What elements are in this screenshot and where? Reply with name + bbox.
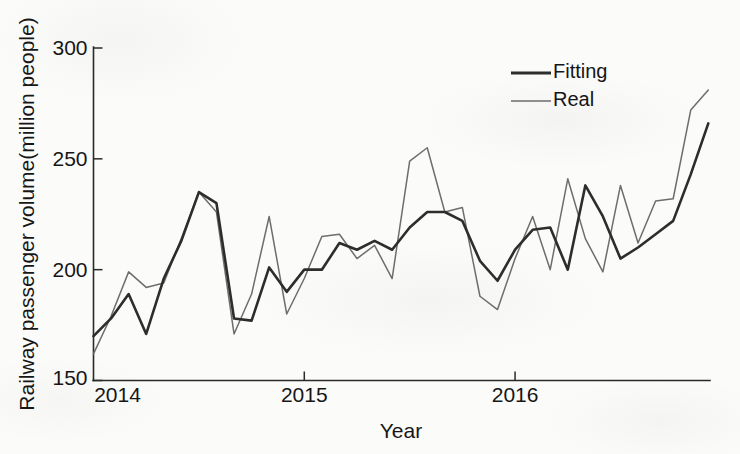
legend-label-real: Real (553, 88, 594, 110)
x-tick-label: 2014 (94, 383, 141, 406)
y-tick-label: 200 (52, 258, 87, 281)
line-chart-svg: Railway passenger volume(million people)… (0, 0, 740, 454)
y-tick-label: 150 (52, 366, 87, 389)
chart-legend: Fitting Real (511, 60, 607, 110)
series-line-real (94, 90, 709, 354)
legend-label-fitting: Fitting (553, 60, 607, 82)
x-axis-ticks: 201420152016 (94, 372, 538, 406)
y-tick-label: 300 (52, 36, 87, 59)
y-axis-title: Railway passenger volume(million people) (15, 17, 38, 410)
x-tick-label: 2016 (492, 383, 539, 406)
x-tick-label: 2015 (281, 383, 328, 406)
x-axis-title: Year (380, 419, 422, 442)
y-tick-label: 250 (52, 147, 87, 170)
chart-figure: Railway passenger volume(million people)… (0, 0, 740, 454)
series-line-fitting (94, 123, 709, 336)
